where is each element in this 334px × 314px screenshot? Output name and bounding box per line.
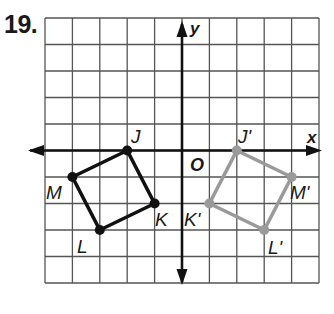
- y-axis-label: y: [189, 19, 201, 38]
- y-axis-up-arrow-icon: [177, 21, 188, 37]
- vertex-point-m: [67, 172, 77, 182]
- quadrilateral-jklm-prime-outline: [209, 151, 291, 231]
- vertex-label-k-prime: K': [184, 209, 202, 230]
- vertex-point-m-prime: [287, 172, 297, 182]
- vertex-point-j: [122, 146, 132, 156]
- x-axis-label: x: [306, 128, 318, 147]
- vertex-label-l-prime: L': [268, 237, 284, 258]
- vertex-label-l: L: [77, 236, 88, 257]
- vertex-point-k: [150, 199, 160, 209]
- vertex-point-l-prime: [259, 225, 269, 235]
- vertex-point-j-prime: [232, 146, 242, 156]
- x-axis-left-arrow-icon: [28, 145, 44, 156]
- origin-label: O: [190, 155, 204, 175]
- vertex-label-m: M: [46, 182, 62, 203]
- vertex-label-j: J: [130, 126, 141, 147]
- quadrilateral-jklm: [67, 146, 159, 236]
- vertex-point-k-prime: [204, 199, 214, 209]
- quadrilateral-jklm-outline: [72, 151, 154, 231]
- vertex-labels: J K L M J' K' L' M': [46, 126, 311, 258]
- quadrilateral-jklm-prime: [204, 146, 296, 236]
- coordinate-plane: y x O J K L M J' K' L' M': [0, 0, 334, 314]
- vertex-label-m-prime: M': [290, 182, 311, 203]
- vertex-point-l: [95, 225, 105, 235]
- vertex-label-k: K: [155, 209, 169, 230]
- vertex-label-j-prime: J': [237, 126, 253, 147]
